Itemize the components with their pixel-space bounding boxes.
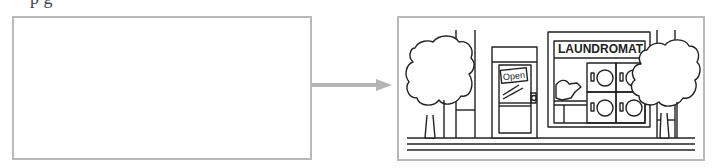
sidewalk-lines-icon [407,138,695,150]
door-icon: Open [492,47,537,138]
open-sign-icon: Open [500,68,527,84]
after-panel: Open LAUNDROMAT [397,16,705,161]
laundromat-illustration: Open LAUNDROMAT [399,18,703,159]
laundromat-sign-text: LAUNDROMAT [558,42,644,56]
tree-left-icon [406,36,474,138]
